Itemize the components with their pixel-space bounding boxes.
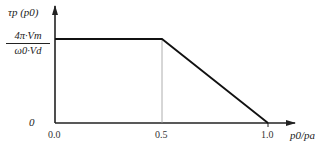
x-tick-0.0: 0.0: [48, 130, 61, 140]
x-axis-label: p0/pa: [290, 130, 315, 141]
x-tick-1.0: 1.0: [261, 130, 274, 140]
x-tick-0.5: 0.5: [155, 130, 168, 140]
y-tick-numerator: 4π·Vm: [6, 31, 50, 44]
chart-canvas: [0, 0, 325, 149]
y-tick-zero: 0: [29, 117, 35, 128]
y-tick-top: 4π·Vm ω0·Vd: [6, 31, 50, 56]
y-tick-denominator: ω0·Vd: [6, 44, 50, 57]
y-axis-label: τp (p0): [8, 7, 39, 18]
series-line: [55, 39, 268, 123]
